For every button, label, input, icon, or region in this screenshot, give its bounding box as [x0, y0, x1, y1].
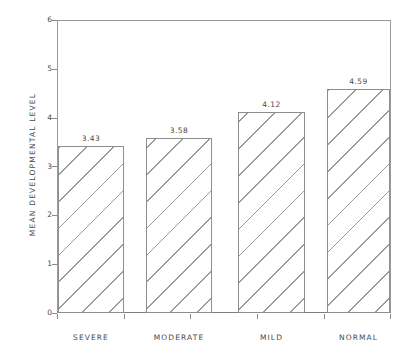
- bar-value-label-severe: 3.43: [58, 135, 124, 143]
- y-tick-label-2: 2: [38, 211, 52, 219]
- x-category-label-moderate: MODERATE: [146, 334, 212, 342]
- x-tick-mark-0: [57, 314, 58, 319]
- bar-value-label-mild: 4.12: [238, 101, 305, 109]
- x-tick-mark-4: [324, 314, 325, 319]
- y-tick-label-4: 4: [38, 114, 52, 122]
- x-tick-mark-1: [124, 314, 125, 319]
- y-tick-label-5: 5: [38, 65, 52, 73]
- x-tick-mark-3: [257, 314, 258, 319]
- bar-normal: [327, 89, 390, 313]
- y-axis-title: MEAN DEVELOPMENTAL LEVEL: [28, 75, 37, 255]
- x-category-label-mild: MILD: [238, 334, 305, 342]
- bar-value-label-normal: 4.59: [327, 78, 390, 86]
- y-tick-label-0: 0: [38, 309, 52, 317]
- x-category-label-severe: SEVERE: [58, 334, 124, 342]
- x-tick-mark-2: [190, 314, 191, 319]
- bar-moderate: [146, 138, 212, 313]
- bar-mild: [238, 112, 305, 313]
- y-tick-label-6: 6: [38, 16, 52, 24]
- bar-chart: MEAN DEVELOPMENTAL LEVEL 6 5 4 3 2 1 0 3…: [0, 0, 403, 354]
- bar-severe: [58, 146, 124, 314]
- y-tick-label-1: 1: [38, 260, 52, 268]
- y-tick-label-3: 3: [38, 163, 52, 171]
- bars-layer: [57, 20, 391, 313]
- x-tick-mark-5: [390, 314, 391, 319]
- bar-value-label-moderate: 3.58: [146, 127, 212, 135]
- x-category-label-normal: NORMAL: [327, 334, 390, 342]
